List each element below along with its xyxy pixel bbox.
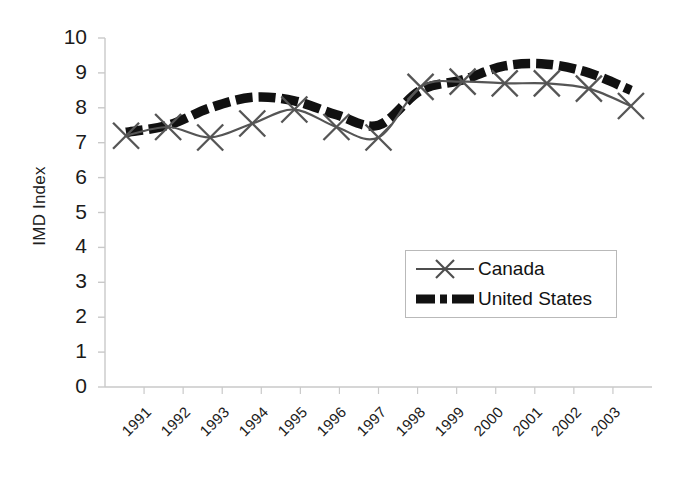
series-canada [113, 69, 644, 151]
data-point-marker [576, 76, 602, 102]
data-point-marker [197, 124, 223, 150]
legend-label-united-states: United States [478, 288, 592, 310]
legend: Canada United States [405, 250, 617, 318]
axis-lines [105, 38, 652, 387]
legend-swatch-canada [414, 257, 476, 281]
data-point-marker [239, 111, 265, 137]
legend-item-canada: Canada [414, 255, 545, 283]
legend-swatch-united-states [414, 287, 476, 311]
data-point-marker [618, 93, 644, 119]
imd-index-line-chart: IMD Index 012345678910 19911992199319941… [0, 0, 689, 489]
legend-label-canada: Canada [478, 258, 545, 280]
legend-item-united-states: United States [414, 285, 592, 313]
plot-area [0, 0, 689, 489]
